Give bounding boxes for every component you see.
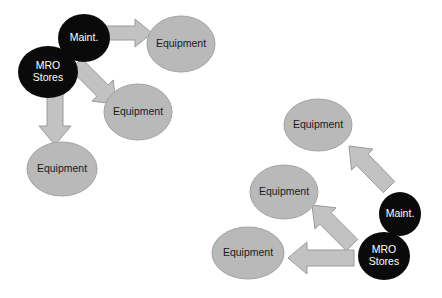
equipment-node-left-bottom[interactable]: Equipment bbox=[27, 142, 97, 196]
equipment-node-right-bottom[interactable]: Equipment bbox=[212, 227, 284, 279]
equipment-node-left-middle[interactable]: Equipment bbox=[104, 84, 172, 140]
maintenance-node-right[interactable]: Maint. bbox=[379, 192, 421, 236]
arrow-maintenance-to-equipment-top bbox=[104, 19, 152, 47]
equipment-node-left-top-shape bbox=[147, 16, 215, 72]
maintenance-node-left[interactable]: Maint. bbox=[58, 14, 110, 62]
maintenance-node-left-shape bbox=[58, 14, 110, 62]
arrow-maintenance-to-equipment-top-right bbox=[349, 146, 395, 193]
diagram-canvas: MROStoresMaint.EquipmentEquipmentEquipme… bbox=[0, 0, 442, 298]
equipment-node-right-top[interactable]: Equipment bbox=[284, 99, 352, 151]
arrow-stores-to-equipment-middle-right bbox=[312, 205, 358, 251]
mro-stores-node-right-shape bbox=[358, 232, 410, 280]
equipment-node-left-middle-shape bbox=[104, 84, 172, 140]
diagram-svg: MROStoresMaint.EquipmentEquipmentEquipme… bbox=[0, 0, 442, 298]
mro-stores-node-right[interactable]: MROStores bbox=[358, 232, 410, 280]
equipment-node-right-bottom-shape bbox=[212, 227, 284, 279]
arrow-stores-to-equipment-bottom bbox=[39, 90, 71, 145]
equipment-node-left-bottom-shape bbox=[27, 142, 97, 196]
equipment-node-left-top[interactable]: Equipment bbox=[147, 16, 215, 72]
equipment-node-right-middle-shape bbox=[250, 165, 318, 219]
equipment-node-right-top-shape bbox=[284, 99, 352, 151]
maintenance-node-right-shape bbox=[379, 192, 421, 236]
equipment-node-right-middle[interactable]: Equipment bbox=[250, 165, 318, 219]
